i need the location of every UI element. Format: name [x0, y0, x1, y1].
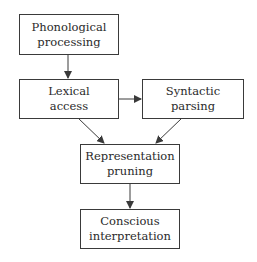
node-label-line: interpretation [89, 229, 171, 244]
node-conscious-interpretation: Conscious interpretation [80, 209, 180, 249]
node-phonological-processing: Phonological processing [19, 14, 119, 55]
node-label-line: access [50, 99, 88, 114]
arrow-lexical-to-pruning [78, 118, 104, 143]
node-label-line: Conscious [100, 214, 159, 229]
node-label-line: pruning [107, 164, 153, 179]
node-label-line: Syntactic [166, 84, 220, 99]
node-lexical-access: Lexical access [19, 79, 119, 119]
flowchart-diagram: Phonological processing Lexical access S… [0, 0, 257, 262]
node-label-line: Lexical [48, 84, 90, 99]
node-label-line: Representation [85, 149, 174, 164]
node-representation-pruning: Representation pruning [80, 144, 180, 184]
node-label-line: parsing [171, 99, 215, 114]
node-label-line: Phonological [31, 20, 106, 35]
node-label-line: processing [37, 35, 100, 50]
node-syntactic-parsing: Syntactic parsing [142, 79, 244, 119]
arrow-syntactic-to-pruning [156, 118, 182, 143]
